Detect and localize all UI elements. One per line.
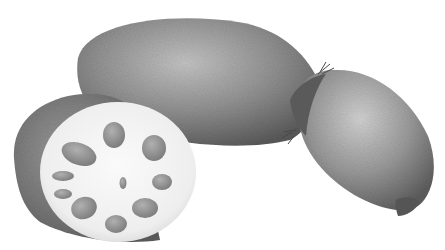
right-root-segment xyxy=(282,62,434,216)
lotus-root-illustration: Lotus root illustration xyxy=(0,0,445,250)
root-tip xyxy=(396,197,420,216)
illustration-svg xyxy=(0,0,445,250)
